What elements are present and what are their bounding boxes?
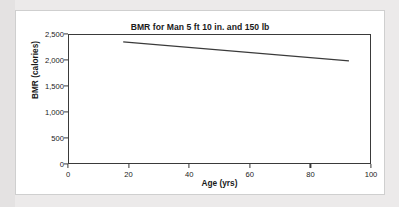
chart-card: BMR for Man 5 ft 10 in. and 150 lb BMR (… [15,10,385,195]
chart-figure: BMR for Man 5 ft 10 in. and 150 lb BMR (… [0,0,399,207]
data-line-svg [69,35,370,163]
data-series-line [123,42,349,61]
x-axis-tick-mark [128,164,129,168]
x-axis-title: Age (yrs) [68,178,371,188]
x-axis-tick-mark [370,164,371,168]
x-axis-tick-mark [67,164,68,168]
y-axis-tick-marks [16,34,76,164]
x-axis-tick-mark [189,164,190,168]
x-axis-tick-mark [249,164,250,168]
plot-area [68,34,371,164]
x-axis-tick-mark [310,164,311,168]
page-gutter [0,0,15,207]
chart-title: BMR for Man 5 ft 10 in. and 150 lb [16,22,384,32]
